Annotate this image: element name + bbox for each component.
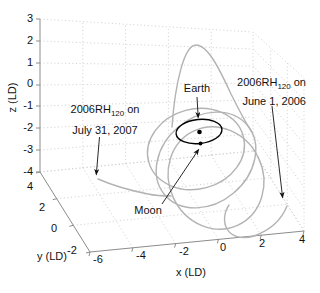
x-tick-label: 0 [208,241,238,254]
backwall-z-gridlines [40,19,252,172]
trajectory-loop-3 [151,111,280,245]
z-tick-label: -4 [3,165,33,178]
z-tick-label: -2 [3,121,33,134]
x-tick-label: 2 [247,237,277,250]
earth-dot [197,130,202,135]
trajectory-3d-plot: 3 2 1 0 -1 -2 -3 -4 4 2 0 -2 -6 -4 -2 0 … [0,0,320,293]
june-arrow [272,106,283,198]
asteroid-designation-subscript: 120 [277,82,290,91]
y-tick-label: 2 [27,201,57,214]
z-axis-ticks [36,19,40,172]
x-axis-label: x (LD) [171,266,211,279]
july-annotation: 2006RH120on July 31, 2007 [55,101,155,139]
x-tick-label: -6 [83,253,113,266]
asteroid-designation-subscript: 120 [111,109,124,118]
x-tick-label: -4 [126,249,156,262]
z-tick-label: 1 [3,56,33,69]
z-axis-label: z (LD) [6,78,19,118]
july-annotation-line1: 2006RH120on [55,101,155,122]
moon-annotation-label: Moon [118,204,178,217]
x-tick-label: -2 [169,245,199,258]
z-tick-label: 3 [3,12,33,25]
july-annotation-line2: July 31, 2007 [55,122,155,139]
floor-x-gridlines [83,151,304,248]
july-arrow [96,137,99,175]
y-tick-label: 4 [15,180,45,193]
moon-dot [199,142,203,146]
z-tick-label: 2 [3,34,33,47]
june-annotation-line1: 2006RH120on [226,75,306,94]
y-tick-label: 0 [39,222,69,235]
earth-annotation-label: Earth [167,82,227,95]
trajectory-loop-1 [138,98,253,201]
june-annotation: 2006RH120on June 1, 2006 [226,75,306,109]
x-tick-label: 4 [287,233,317,246]
y-axis-label: y (LD) [32,250,72,263]
earth-arrow [197,97,198,118]
z-tick-label: -3 [3,143,33,156]
june-annotation-line2: June 1, 2006 [226,94,306,109]
